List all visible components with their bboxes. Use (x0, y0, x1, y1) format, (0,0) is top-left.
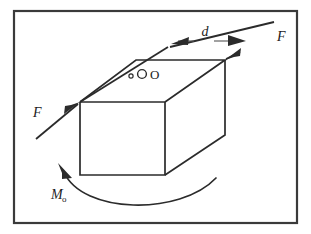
block-front-face (80, 102, 165, 175)
force-label-right: F (276, 29, 286, 44)
force-label-left: F (32, 105, 42, 120)
point-o-dot (129, 74, 133, 78)
point-o-circle (138, 70, 147, 79)
moment-label-subscript: o (62, 194, 67, 204)
figure-container: F F d O M o (0, 0, 311, 234)
distance-label-d: d (202, 24, 210, 39)
mechanics-diagram: F F d O M o (0, 0, 311, 234)
point-label-o: O (150, 67, 159, 82)
